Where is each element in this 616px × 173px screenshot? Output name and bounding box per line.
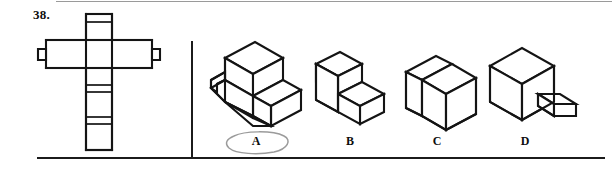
bottom-rule — [37, 157, 605, 159]
option-b-label[interactable]: B — [330, 134, 370, 149]
option-d-label[interactable]: D — [505, 134, 545, 149]
option-b-figure[interactable] — [300, 34, 404, 134]
option-c-label[interactable]: C — [417, 134, 457, 149]
worksheet-page: 38. — [0, 0, 616, 173]
orthographic-view — [38, 8, 158, 156]
option-d-figure[interactable] — [480, 34, 584, 134]
panel-divider — [191, 41, 193, 159]
option-a-label[interactable]: A — [236, 134, 276, 149]
option-a-figure[interactable] — [203, 34, 307, 134]
top-rule — [56, 1, 612, 2]
